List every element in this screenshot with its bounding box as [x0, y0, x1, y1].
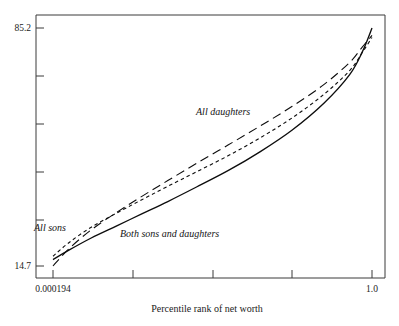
y-axis-min-label: 14.7 — [14, 261, 31, 271]
series-annotation-all-daughters: All daughters — [195, 106, 250, 117]
series-annotation-both: Both sons and daughters — [120, 228, 219, 239]
x-axis-min-label: 0.000194 — [35, 284, 71, 294]
series-line-both-sons-and-daughters — [53, 28, 372, 260]
net-worth-percentile-chart: 85.2 14.7 0.000194 1.0 Percentile rank o… — [0, 0, 399, 326]
x-axis-ticks — [53, 270, 372, 278]
x-axis-title: Percentile rank of net worth — [151, 303, 263, 314]
x-axis-max-label: 1.0 — [366, 284, 378, 294]
y-axis-max-label: 85.2 — [14, 23, 31, 33]
chart-container: 85.2 14.7 0.000194 1.0 Percentile rank o… — [0, 0, 399, 326]
series-annotation-all-sons: All sons — [33, 222, 66, 233]
